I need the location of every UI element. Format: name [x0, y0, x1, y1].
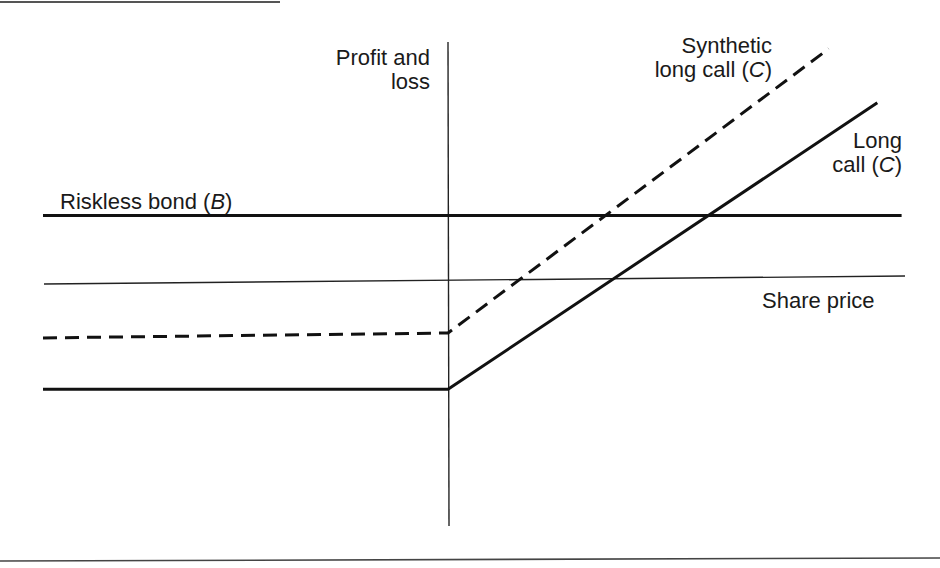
long-call-line: [43, 103, 877, 390]
y-axis-label: Profit and loss: [290, 46, 430, 94]
synthetic-long-call-label-text: long call (: [655, 57, 749, 82]
bottom-border: [0, 558, 940, 561]
synthetic-long-call-label-symbol: C: [749, 57, 765, 82]
long-call-label: Long call (C): [780, 129, 902, 177]
long-call-label-symbol: C: [879, 152, 895, 177]
x-axis-label: Share price: [762, 289, 875, 313]
riskless-bond-label: Riskless bond (B): [60, 190, 232, 214]
x-axis: [44, 276, 905, 284]
long-call-label-line2: call (C): [780, 153, 902, 177]
y-axis: [448, 42, 449, 526]
synthetic-long-call-label: Synthetic long call (C): [600, 34, 772, 82]
diagram-canvas: [0, 0, 940, 568]
long-call-label-text: call (: [832, 152, 878, 177]
synthetic-long-call-label-line1: Synthetic: [600, 34, 772, 58]
x-axis-label-text: Share price: [762, 288, 875, 313]
long-call-label-close: ): [895, 152, 902, 177]
riskless-bond-label-close: ): [225, 189, 232, 214]
synthetic-long-call-label-close: ): [765, 57, 772, 82]
riskless-bond-label-symbol: B: [210, 189, 225, 214]
y-axis-label-line1: Profit and: [290, 46, 430, 70]
long-call-label-line1: Long: [780, 129, 902, 153]
y-axis-label-line2: loss: [290, 70, 430, 94]
synthetic-long-call-label-line2: long call (C): [600, 58, 772, 82]
riskless-bond-label-text: Riskless bond (: [60, 189, 210, 214]
